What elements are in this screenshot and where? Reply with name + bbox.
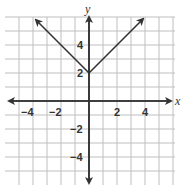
y-axis-label: y bbox=[84, 2, 91, 16]
y-tick-neg4: −4 bbox=[70, 151, 83, 163]
y-tick-neg2: −2 bbox=[70, 123, 83, 135]
x-tick-neg2: −2 bbox=[49, 106, 62, 118]
x-tick-2: 2 bbox=[114, 106, 120, 118]
x-tick-4: 4 bbox=[142, 106, 149, 118]
y-tick-4: 4 bbox=[77, 39, 84, 51]
x-axis-label: x bbox=[174, 94, 181, 108]
coordinate-plane: x y −4 −2 2 4 4 2 −2 −4 bbox=[0, 0, 186, 186]
x-tick-neg4: −4 bbox=[21, 106, 34, 118]
y-tick-2: 2 bbox=[77, 67, 83, 79]
